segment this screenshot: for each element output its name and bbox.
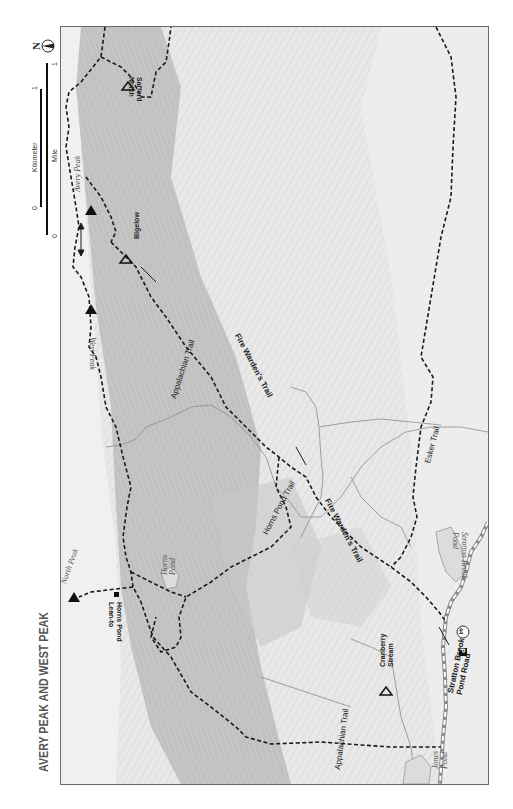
mile-end-label: 1 bbox=[51, 62, 58, 66]
label-bigelow: Bigelow bbox=[133, 212, 140, 239]
terrain-svg bbox=[61, 27, 488, 784]
label-jones-pond: Jones Pond bbox=[431, 751, 449, 769]
parking-label: P bbox=[459, 648, 466, 653]
mile-bar bbox=[46, 63, 48, 235]
km-start-label: 0 bbox=[31, 206, 38, 210]
map-header-strip: N 0 1 Kilometer 0 1 Mile AVERY PEAK AND … bbox=[26, 26, 61, 785]
label-horns-pond-lean-to: Horns Pond Lean-to bbox=[107, 602, 123, 642]
mile-label: Mile bbox=[51, 149, 58, 162]
route-marker-number: 44 bbox=[458, 628, 464, 635]
label-avery-peak: Avery Peak bbox=[73, 156, 82, 192]
map-canvas: Avery Peak West Peak North Peak Safford … bbox=[61, 27, 488, 784]
label-safford-notch: Safford Notch bbox=[127, 77, 143, 102]
km-label: Kilometer bbox=[31, 142, 38, 172]
scale-bar: 0 1 Kilometer 0 1 Mile bbox=[26, 26, 61, 246]
label-west-peak: West Peak bbox=[88, 337, 97, 370]
km-bar-half bbox=[40, 89, 42, 149]
shelter-square-icon bbox=[114, 592, 119, 597]
label-cranberry-stream: Cranberry Stream bbox=[379, 634, 395, 667]
mile-start-label: 0 bbox=[51, 234, 58, 238]
km-end-label: 1 bbox=[31, 86, 38, 90]
label-horns-pond: Horns Pond bbox=[161, 555, 177, 575]
label-stratton-brook-pond: Stratton Brook Pond bbox=[451, 532, 469, 579]
map-title: AVERY PEAK AND WEST PEAK bbox=[36, 612, 51, 772]
